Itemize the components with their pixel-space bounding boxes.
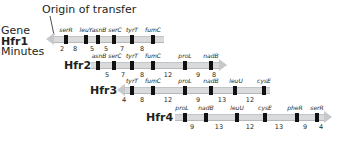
minute-interval: 12 <box>164 72 172 79</box>
gene-marker <box>262 86 266 95</box>
gene-marker <box>84 35 88 44</box>
gene-label: serR <box>59 27 72 33</box>
gene-label: proL <box>178 53 191 59</box>
minute-interval: 8 <box>73 46 77 53</box>
gene-marker <box>295 113 299 122</box>
chromosome-bar <box>54 36 164 43</box>
gene-label: leuU <box>229 78 243 84</box>
minute-interval: 9 <box>196 97 200 104</box>
gene-label: fumC <box>145 78 161 84</box>
gene-marker <box>96 61 100 70</box>
gene-marker <box>315 113 319 122</box>
minute-interval: 12 <box>164 97 172 104</box>
gene-label: nadB <box>203 78 218 84</box>
gene-label: tyrT <box>126 78 138 84</box>
chromosome-bar <box>91 62 219 69</box>
minute-interval: 9 <box>190 124 194 131</box>
gene-label: fumC <box>145 27 161 33</box>
minute-interval: 12 <box>246 97 254 104</box>
gene-marker <box>183 86 187 95</box>
gene-marker <box>151 86 155 95</box>
gene-marker <box>151 35 155 44</box>
gene-marker <box>263 113 267 122</box>
gene-label: proL <box>175 105 188 111</box>
minute-interval: 13 <box>215 124 223 131</box>
gene-marker <box>130 61 134 70</box>
gene-marker <box>130 86 134 95</box>
gene-marker <box>235 113 239 122</box>
minutes-row-label: Minutes <box>1 46 44 57</box>
gene-label: serR <box>310 105 323 111</box>
transfer-direction-arrow-icon <box>219 59 227 71</box>
gene-label: leuU <box>230 105 244 111</box>
minute-interval: 9 <box>196 72 200 79</box>
gene-marker <box>112 35 116 44</box>
gene-marker <box>130 35 134 44</box>
minute-interval: 4 <box>122 97 126 104</box>
gene-marker <box>112 61 116 70</box>
transfer-direction-arrow-icon <box>324 111 332 123</box>
minute-interval: 13 <box>275 124 283 131</box>
gene-label: fumC <box>145 53 161 59</box>
gene-label: cysE <box>258 105 272 111</box>
minute-interval: 5 <box>105 72 109 79</box>
gene-marker <box>209 61 213 70</box>
gene-label: proL <box>178 78 191 84</box>
chromosome-bar <box>125 87 270 94</box>
gene-label: cysE <box>257 78 271 84</box>
minute-interval: 4 <box>319 124 323 131</box>
chromosome-bar <box>175 114 325 121</box>
gene-label: nadB <box>198 105 213 111</box>
gene-marker <box>151 61 155 70</box>
gene-marker <box>204 113 208 122</box>
minute-interval: 8 <box>140 97 144 104</box>
minute-interval: 12 <box>246 124 254 131</box>
strain-label-hfr4: Hfr4 <box>146 112 173 123</box>
gene-label: asnB <box>92 53 107 59</box>
gene-label: serC <box>108 27 121 33</box>
strain-label-hfr3: Hfr3 <box>90 85 117 96</box>
transfer-direction-arrow-icon <box>46 33 54 45</box>
gene-label: nadB <box>203 53 218 59</box>
minute-interval: 8 <box>140 72 144 79</box>
minute-interval: 7 <box>121 72 125 79</box>
minute-interval: 2 <box>60 46 64 53</box>
gene-label: tyrT <box>126 27 138 33</box>
minute-interval: 13 <box>218 97 226 104</box>
minute-interval: 8 <box>140 46 144 53</box>
minute-interval: 9 <box>303 124 307 131</box>
gene-marker <box>96 35 100 44</box>
gene-label: leuY <box>80 27 93 33</box>
gene-label: pheR <box>287 105 302 111</box>
gene-marker <box>209 86 213 95</box>
gene-marker <box>183 113 187 122</box>
transfer-direction-arrow-icon <box>117 84 125 96</box>
gene-label: asnB <box>92 27 107 33</box>
gene-label: tyrT <box>126 53 138 59</box>
gene-marker <box>183 61 187 70</box>
gene-label: serC <box>108 53 121 59</box>
gene-marker <box>233 86 237 95</box>
strain-label-hfr2: Hfr2 <box>64 60 91 71</box>
gene-marker <box>64 35 68 44</box>
